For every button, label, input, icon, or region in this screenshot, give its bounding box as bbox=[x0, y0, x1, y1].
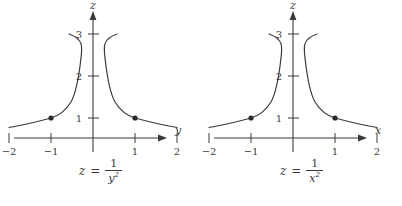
plot-left: −2 −1 1 2 1 2 3 y z z = 1 y2 bbox=[0, 0, 201, 206]
x-tick-label-2: 2 bbox=[374, 146, 380, 157]
equation-relation: = bbox=[290, 165, 302, 177]
fraction-denominator: x2 bbox=[306, 171, 323, 184]
y-axis-arrowhead bbox=[90, 11, 97, 20]
plot-left-canvas: −2 −1 1 2 1 2 3 y z bbox=[0, 0, 201, 160]
x-tick-label--1: −1 bbox=[44, 146, 59, 157]
equation-caption-right: z = 1 x2 bbox=[201, 158, 402, 184]
curve-left-branch bbox=[9, 34, 82, 128]
equation-caption-left: z = 1 y2 bbox=[0, 158, 201, 184]
x-axis-label: x bbox=[375, 124, 382, 137]
x-tick-label--2: −2 bbox=[202, 146, 217, 157]
x-tick-label--2: −2 bbox=[2, 146, 17, 157]
marker-point-pos1 bbox=[132, 115, 137, 120]
x-tick-label-1: 1 bbox=[132, 146, 138, 157]
marker-point-pos1 bbox=[332, 115, 337, 120]
equation-relation: = bbox=[89, 165, 101, 177]
marker-point-neg1 bbox=[248, 115, 253, 120]
x-axis-label: y bbox=[174, 124, 182, 137]
denominator-exponent: 2 bbox=[115, 171, 119, 179]
y-tick-label-2: 2 bbox=[276, 71, 282, 82]
x-tick-label--1: −1 bbox=[244, 146, 259, 157]
equation-fraction: 1 y2 bbox=[105, 158, 122, 184]
equation-fraction: 1 x2 bbox=[306, 158, 323, 184]
x-tick-label-1: 1 bbox=[332, 146, 338, 157]
denominator-exponent: 2 bbox=[316, 171, 320, 179]
fraction-numerator: 1 bbox=[107, 158, 120, 170]
x-axis-arrowhead bbox=[358, 135, 367, 142]
equation-lhs: z bbox=[280, 165, 286, 177]
y-axis-label: z bbox=[289, 0, 296, 12]
curve-right-branch bbox=[304, 34, 377, 128]
equation-lhs: z bbox=[79, 165, 85, 177]
curve-right-branch bbox=[104, 34, 177, 128]
y-tick-label-2: 2 bbox=[76, 71, 82, 82]
y-axis-label: z bbox=[89, 0, 96, 12]
y-tick-label-1: 1 bbox=[276, 113, 282, 124]
plot-right-canvas: −2 −1 1 2 1 2 3 x z bbox=[201, 0, 402, 160]
y-tick-label-1: 1 bbox=[76, 113, 82, 124]
curve-left-branch bbox=[209, 34, 282, 128]
figure-container: −2 −1 1 2 1 2 3 y z z = 1 y2 bbox=[0, 0, 402, 206]
y-tick-label-3: 3 bbox=[76, 29, 82, 40]
x-tick-label-2: 2 bbox=[174, 146, 180, 157]
x-axis-arrowhead bbox=[158, 135, 167, 142]
y-tick-label-3: 3 bbox=[276, 29, 282, 40]
plot-right: −2 −1 1 2 1 2 3 x z z = 1 x2 bbox=[201, 0, 402, 206]
fraction-numerator: 1 bbox=[308, 158, 321, 170]
marker-point-neg1 bbox=[48, 115, 53, 120]
fraction-denominator: y2 bbox=[105, 171, 122, 184]
y-axis-arrowhead bbox=[290, 11, 297, 20]
